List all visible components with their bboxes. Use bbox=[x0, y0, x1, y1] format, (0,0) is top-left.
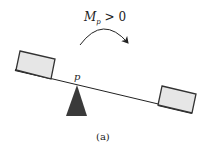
moment-label: Mp > 0 bbox=[83, 10, 126, 26]
figure-caption: (a) bbox=[96, 131, 110, 142]
fulcrum-triangle bbox=[66, 85, 87, 116]
clockwise-moment-arrow-icon bbox=[80, 29, 128, 45]
left-weight-box bbox=[16, 51, 55, 79]
right-weight-box bbox=[158, 86, 196, 113]
seesaw-moment-diagram: Mp > 0 p (a) bbox=[0, 0, 206, 152]
pivot-label: p bbox=[74, 71, 81, 82]
